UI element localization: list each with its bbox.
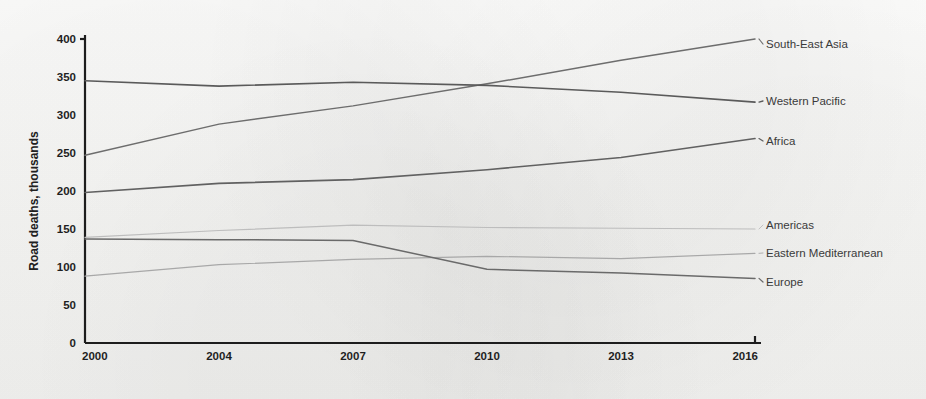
series-line-europe — [85, 239, 755, 279]
chart-canvas: 0501001502002503003504002000200420072010… — [0, 0, 926, 399]
x-tick-label: 2004 — [206, 350, 232, 362]
series-line-americas — [85, 225, 755, 237]
series-leader-2 — [759, 139, 763, 141]
y-tick-label: 200 — [57, 185, 76, 197]
line-chart: 0501001502002503003504002000200420072010… — [0, 0, 926, 399]
series-label-africa: Africa — [766, 135, 796, 147]
y-tick-label: 150 — [57, 223, 76, 235]
y-tick-label: 100 — [57, 261, 76, 273]
x-tick-label: 2000 — [82, 350, 108, 362]
series-label-eastern-mediterranean: Eastern Mediterranean — [766, 247, 883, 259]
series-label-south-east-asia: South-East Asia — [766, 38, 848, 50]
series-leader-0 — [759, 39, 763, 44]
series-line-eastern-mediterranean — [85, 253, 755, 276]
x-tick-label: 2007 — [340, 350, 366, 362]
y-axis-title: Road deaths, thousands — [27, 131, 41, 271]
series-line-africa — [85, 139, 755, 193]
x-tick-label: 2010 — [474, 350, 500, 362]
series-leader-3 — [759, 225, 763, 229]
series-leader-5 — [759, 278, 763, 282]
series-leader-1 — [759, 101, 763, 102]
y-tick-label: 300 — [57, 109, 76, 121]
series-line-western-pacific — [85, 81, 755, 102]
series-line-south-east-asia — [85, 39, 755, 155]
y-tick-label: 250 — [57, 147, 76, 159]
y-tick-label: 350 — [57, 71, 76, 83]
series-label-western-pacific: Western Pacific — [766, 95, 846, 107]
y-tick-label: 50 — [63, 299, 76, 311]
y-tick-label: 400 — [57, 33, 76, 45]
series-label-americas: Americas — [766, 219, 814, 231]
series-label-europe: Europe — [766, 276, 803, 288]
x-tick-label: 2016 — [732, 350, 758, 362]
y-tick-label: 0 — [70, 337, 76, 349]
x-tick-label: 2013 — [608, 350, 634, 362]
